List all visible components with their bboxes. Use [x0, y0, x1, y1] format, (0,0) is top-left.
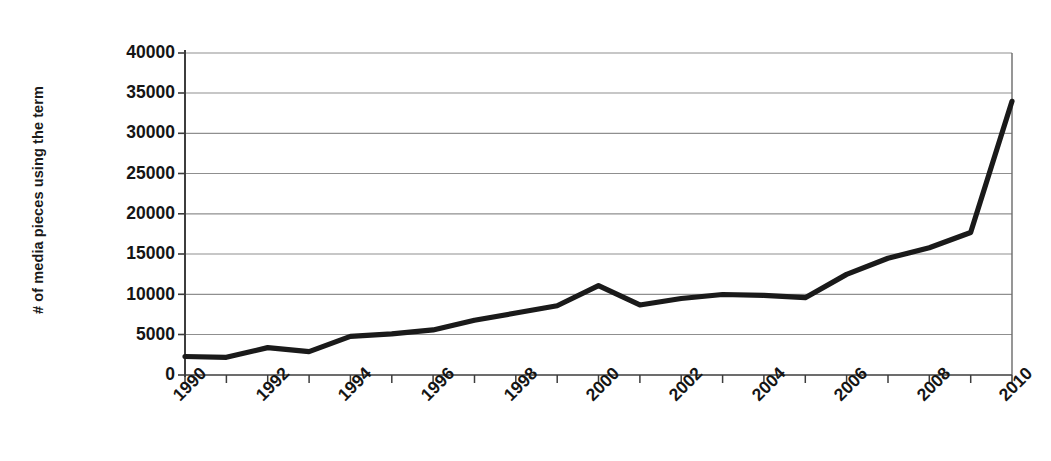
y-axis-line: [178, 50, 185, 377]
data-series-line: [185, 101, 1012, 357]
line-chart: # of media pieces using the term 40000 3…: [0, 0, 1051, 461]
gridlines: [185, 53, 1012, 335]
